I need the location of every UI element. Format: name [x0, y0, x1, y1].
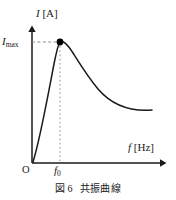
f0-subscript: 0: [57, 169, 61, 178]
origin-label: O: [22, 165, 30, 176]
x-axis-unit: [Hz]: [134, 141, 154, 153]
caption-number: 6: [65, 183, 75, 194]
imax-subscript: max: [6, 40, 19, 49]
f0-label: f0: [54, 165, 61, 176]
y-axis-label: I [A]: [36, 8, 58, 19]
x-axis-label: f [Hz]: [128, 142, 154, 153]
y-axis-unit: [A]: [42, 7, 57, 19]
figure-resonance-curve: I [A] Imax f [Hz] O f0 図6共振曲線: [0, 0, 176, 200]
caption-title: 共振曲線: [76, 183, 121, 194]
figure-caption: 図6共振曲線: [0, 180, 176, 195]
imax-label: Imax: [2, 36, 19, 47]
peak-marker-dot: [57, 39, 64, 46]
caption-prefix: 図: [55, 183, 65, 194]
